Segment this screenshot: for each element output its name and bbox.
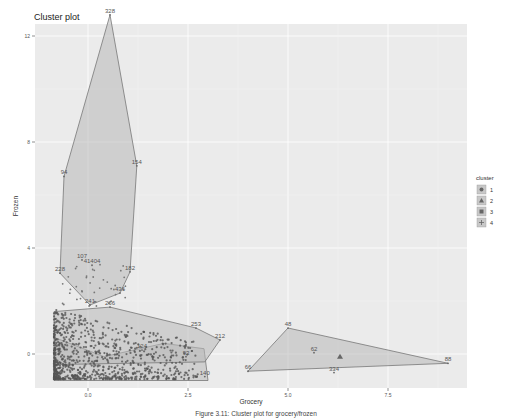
point-label: 124 xyxy=(137,343,148,349)
svg-text:7.5: 7.5 xyxy=(385,392,392,398)
svg-text:0: 0 xyxy=(27,351,30,357)
x-axis-ticks: 0.02.55.07.5 xyxy=(85,388,392,398)
svg-text:2.5: 2.5 xyxy=(185,392,192,398)
point-label: 62 xyxy=(311,346,318,352)
y-axis-label: Frozen xyxy=(12,196,19,217)
point-label: 94 xyxy=(61,169,68,175)
figure-caption: Figure 3.11: Cluster plot for grocery/fr… xyxy=(195,410,317,418)
cluster-plot: Cluster plot 328154941822284362411074140… xyxy=(0,0,512,419)
point-label: 228 xyxy=(55,266,66,272)
point-label: 154 xyxy=(132,159,143,165)
legend-item-4: 4 xyxy=(477,218,493,227)
point-label: 41404 xyxy=(84,258,101,264)
point-label: 212 xyxy=(215,333,226,339)
point-label: 241 xyxy=(85,298,96,304)
svg-text:4: 4 xyxy=(490,220,493,226)
svg-text:4: 4 xyxy=(27,245,30,251)
point-label: 253 xyxy=(191,321,202,327)
svg-text:8: 8 xyxy=(27,139,30,145)
point-label: 334 xyxy=(329,366,340,372)
svg-text:0.0: 0.0 xyxy=(85,392,92,398)
point-label: 328 xyxy=(105,8,116,14)
point-label: 182 xyxy=(125,265,136,271)
point-label: 436 xyxy=(115,286,126,292)
legend-item-2: 2 xyxy=(477,196,493,205)
legend: cluster 1234 xyxy=(476,175,494,227)
point-label: 48 xyxy=(285,321,292,327)
svg-text:2: 2 xyxy=(490,198,493,204)
legend-item-1: 1 xyxy=(477,185,493,194)
svg-text:5.0: 5.0 xyxy=(285,392,292,398)
x-axis-label: Grocery xyxy=(239,398,263,406)
y-axis-ticks: 04812 xyxy=(24,33,35,357)
chart-title: Cluster plot xyxy=(34,12,80,22)
svg-text:1: 1 xyxy=(490,187,493,193)
svg-text:3: 3 xyxy=(490,209,493,215)
legend-item-3: 3 xyxy=(477,207,493,216)
point-label: 266 xyxy=(105,300,116,306)
svg-text:12: 12 xyxy=(24,33,30,39)
point-label: 88 xyxy=(445,356,452,362)
point-label: 140 xyxy=(200,370,211,376)
point-label: 66 xyxy=(245,364,252,370)
legend-title: cluster xyxy=(476,175,494,181)
point-label: 93 xyxy=(183,350,190,356)
